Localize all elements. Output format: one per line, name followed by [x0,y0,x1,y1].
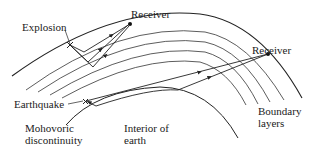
earthquake-leader-line [68,101,83,104]
interior-label-line2: earth [124,134,146,146]
boundary-layer-arc-2 [38,41,270,102]
mohovoric-label-line1: Mohovoric [25,122,74,134]
earthquake-label: Earthquake [14,98,64,110]
receiver-top-marker [128,22,132,26]
receiver-right-label: Receiver [252,44,291,56]
explosion-label: Explosion [22,21,67,33]
interior-label-line1: Interior of [124,122,169,134]
mohovoric-label-line2: discontinuity [25,134,82,146]
boundary-layers-label-line1: Boundary [258,105,301,117]
boundary-layer-arc-3 [50,51,258,104]
boundary-layers-label-line2: layers [258,117,284,129]
receiver-top-label: Receiver [131,8,170,20]
boundary-layer-arc-1 [26,31,284,100]
